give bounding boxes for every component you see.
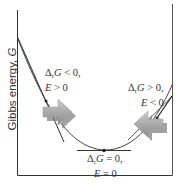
condition-text: < 0	[147, 97, 163, 108]
left-pointer-dot	[45, 100, 48, 103]
y-axis-label-text: Gibbs energy,	[6, 57, 18, 131]
delta-symbol: Δ	[45, 67, 52, 78]
condition-text: = 0,	[104, 153, 123, 164]
g-symbol: G	[96, 153, 104, 164]
condition-text: = 0	[100, 168, 116, 179]
label-spontaneous-forward: ΔrG < 0, E > 0	[45, 67, 81, 94]
left-pointer-line	[21, 46, 45, 100]
delta-symbol: Δ	[128, 82, 135, 93]
gibbs-energy-diagram: Gibbs energy, G ΔrG < 0, E > 0 ΔrG > 0, …	[0, 0, 178, 184]
reverse-arrow-icon	[134, 111, 167, 141]
condition-text: > 0,	[145, 82, 164, 93]
label-equilibrium: ΔrG = 0, E = 0	[87, 153, 123, 180]
y-axis-label: Gibbs energy, G	[5, 39, 19, 139]
condition-text: > 0	[51, 82, 67, 93]
g-symbol: G	[54, 67, 62, 78]
delta-symbol: Δ	[87, 153, 94, 164]
g-symbol: G	[137, 82, 145, 93]
condition-text: < 0,	[62, 67, 81, 78]
label-spontaneous-reverse: ΔrG > 0, E < 0	[128, 82, 164, 109]
equilibrium-point	[102, 149, 106, 153]
y-axis-symbol: G	[6, 48, 18, 57]
